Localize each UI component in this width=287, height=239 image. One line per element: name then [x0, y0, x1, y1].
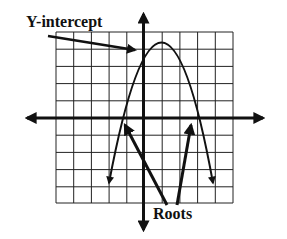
- roots-label: Roots: [153, 206, 192, 222]
- root-arrow-right: [177, 125, 191, 205]
- root-arrow-left: [125, 125, 167, 205]
- parabola-diagram: [0, 0, 287, 239]
- y-intercept-label: Y-intercept: [26, 14, 102, 30]
